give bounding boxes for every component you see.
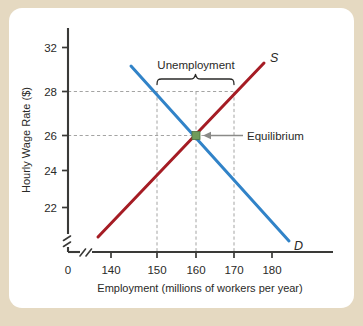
x-tick-label-0: 0 <box>65 264 71 276</box>
reference-lines <box>68 92 234 253</box>
demand-curve <box>131 66 289 241</box>
x-axis-title: Employment (millions of workers per year… <box>97 282 302 294</box>
supply-curve-label: S <box>270 51 279 65</box>
supply-curve <box>98 63 264 237</box>
equilibrium-label: Equilibrium <box>247 130 304 142</box>
y-tick-label-26: 26 <box>44 130 57 142</box>
y-tick-label-32: 32 <box>44 42 57 54</box>
x-tick-label-170: 170 <box>224 264 243 276</box>
y-axis-title: Hourly Wage Rate ($) <box>20 87 32 193</box>
x-tick-label-160: 160 <box>186 264 205 276</box>
y-tick-label-28: 28 <box>44 86 57 98</box>
x-tick-label-150: 150 <box>147 264 166 276</box>
demand-curve-label: D <box>294 239 303 253</box>
y-axis-break-icon <box>64 236 71 247</box>
labor-market-chart: 32 28 26 24 22 0 140 150 160 170 180 Emp… <box>0 0 363 326</box>
unemployment-brace <box>157 75 234 85</box>
x-tick-label-180: 180 <box>262 264 281 276</box>
unemployment-label: Unemployment <box>157 59 235 71</box>
equilibrium-arrow <box>203 132 243 139</box>
x-axis-break-icon <box>80 249 92 256</box>
equilibrium-marker <box>192 132 200 140</box>
figure-root: 32 28 26 24 22 0 140 150 160 170 180 Emp… <box>0 0 363 326</box>
y-tick-label-24: 24 <box>44 165 57 177</box>
x-tick-label-140: 140 <box>101 264 120 276</box>
y-tick-label-22: 22 <box>44 202 57 214</box>
